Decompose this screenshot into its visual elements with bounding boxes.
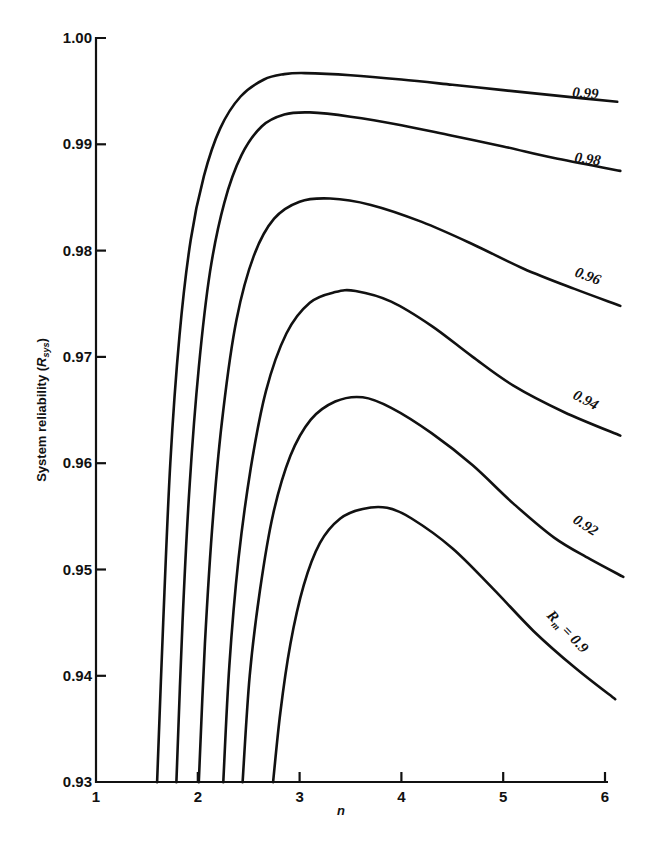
curve-label-0.9: Rm = 0.9 [542, 606, 593, 657]
y-tick-label: 0.97 [63, 348, 92, 365]
curve-rm-0.9 [273, 507, 615, 782]
curve-rm-0.92 [243, 397, 624, 782]
curve-label-0.96: 0.96 [573, 264, 604, 288]
x-tick-label: 2 [194, 788, 202, 805]
curve-label-0.98: 0.98 [574, 149, 603, 169]
curve-rm-0.96 [199, 198, 621, 782]
x-axis-ticks: 123456 [92, 772, 609, 805]
y-axis-ticks: 0.930.940.950.960.970.980.991.00 [63, 29, 106, 790]
x-axis-label: n [337, 803, 345, 818]
curve-rm-0.94 [223, 290, 620, 782]
x-tick-label: 4 [397, 788, 406, 805]
y-tick-label: 0.94 [63, 667, 93, 684]
y-axis-label: System reliability (Rsys) [34, 338, 51, 482]
y-tick-label: 0.95 [63, 561, 92, 578]
curves-group [157, 73, 623, 782]
y-tick-label: 0.98 [63, 242, 92, 259]
x-tick-label: 1 [92, 788, 100, 805]
x-tick-label: 3 [295, 788, 303, 805]
y-tick-label: 0.99 [63, 135, 92, 152]
y-tick-label: 1.00 [63, 29, 92, 46]
reliability-chart: 0.930.940.950.960.970.980.991.00 123456 … [0, 0, 658, 847]
y-tick-label: 0.96 [63, 454, 92, 471]
x-tick-label: 5 [499, 788, 507, 805]
curve-label-0.94: 0.94 [571, 387, 602, 414]
curve-rm-0.99 [157, 73, 617, 782]
curve-label-0.92: 0.92 [570, 511, 601, 539]
curve-label-0.99: 0.99 [572, 84, 600, 102]
y-tick-label: 0.93 [63, 773, 92, 790]
x-tick-label: 6 [601, 788, 609, 805]
